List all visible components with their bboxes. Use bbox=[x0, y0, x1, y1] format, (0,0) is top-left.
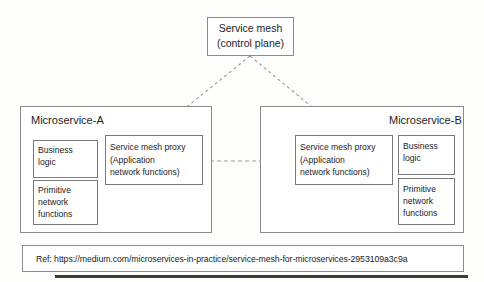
reference-url-label[interactable]: Ref: https://medium.com/microservices-in… bbox=[36, 253, 407, 265]
microservice-b-primitive-network-functions-label: Primitive network functions bbox=[403, 183, 455, 219]
microservice-a-business-logic-label: Business logic bbox=[38, 144, 96, 168]
microservice-a-title: Microservice-A bbox=[31, 113, 104, 127]
service-mesh-control-plane-label: Service mesh (control plane) bbox=[207, 21, 294, 51]
microservice-a-primitive-network-functions-label: Primitive network functions bbox=[38, 184, 96, 220]
bottom-divider bbox=[55, 275, 468, 278]
service-mesh-diagram: Service mesh (control plane) Microservic… bbox=[0, 0, 484, 282]
microservice-b-business-logic-label: Business logic bbox=[403, 140, 455, 164]
microservice-b-service-mesh-proxy-label: Service mesh proxy (Application network … bbox=[300, 141, 392, 179]
microservice-b-title: Microservice-B bbox=[389, 113, 462, 127]
microservice-a-service-mesh-proxy-label: Service mesh proxy (Application network … bbox=[110, 141, 202, 179]
